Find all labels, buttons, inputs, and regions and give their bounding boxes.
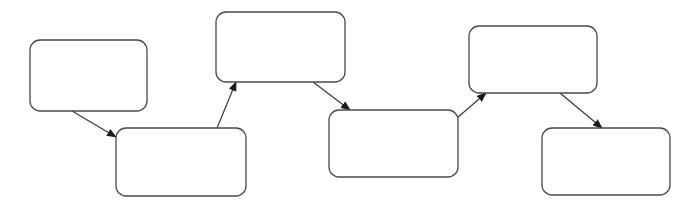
arrow-connector (313, 82, 350, 110)
arrow-connector (72, 111, 116, 137)
flowchart-node[interactable] (542, 128, 670, 195)
arrow-connector (560, 93, 602, 128)
flowchart-node[interactable] (216, 12, 345, 82)
flowchart-node[interactable] (469, 26, 597, 93)
flowchart-svg (0, 0, 696, 208)
node-box[interactable] (542, 128, 670, 195)
arrow-connector (217, 82, 236, 128)
node-box[interactable] (116, 128, 246, 196)
arrow-connector (457, 93, 486, 118)
flowchart-node[interactable] (30, 40, 147, 111)
node-box[interactable] (329, 110, 458, 177)
node-box[interactable] (216, 12, 345, 82)
flowchart-node[interactable] (329, 110, 458, 177)
node-box[interactable] (469, 26, 597, 93)
diagram-canvas (0, 0, 696, 208)
node-box[interactable] (30, 40, 147, 111)
flowchart-node[interactable] (116, 128, 246, 196)
